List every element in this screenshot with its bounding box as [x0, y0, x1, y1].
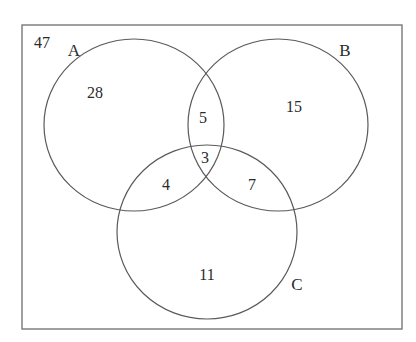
universal-set-frame: [22, 25, 402, 329]
set-c-circle: [117, 145, 297, 319]
set-c-label: C: [291, 276, 302, 293]
a-c-count: 4: [162, 177, 170, 193]
a-only-count: 28: [87, 85, 103, 101]
venn-diagram: [0, 0, 416, 342]
set-b-circle: [188, 39, 368, 211]
b-only-count: 15: [286, 99, 302, 115]
a-b-count: 5: [199, 110, 207, 126]
b-c-count: 7: [248, 177, 256, 193]
set-b-label: B: [339, 42, 350, 59]
set-a-label: A: [68, 42, 80, 59]
set-a-circle: [44, 39, 224, 211]
outside-count: 47: [34, 35, 50, 51]
a-b-c-count: 3: [201, 150, 209, 166]
c-only-count: 11: [199, 267, 214, 283]
